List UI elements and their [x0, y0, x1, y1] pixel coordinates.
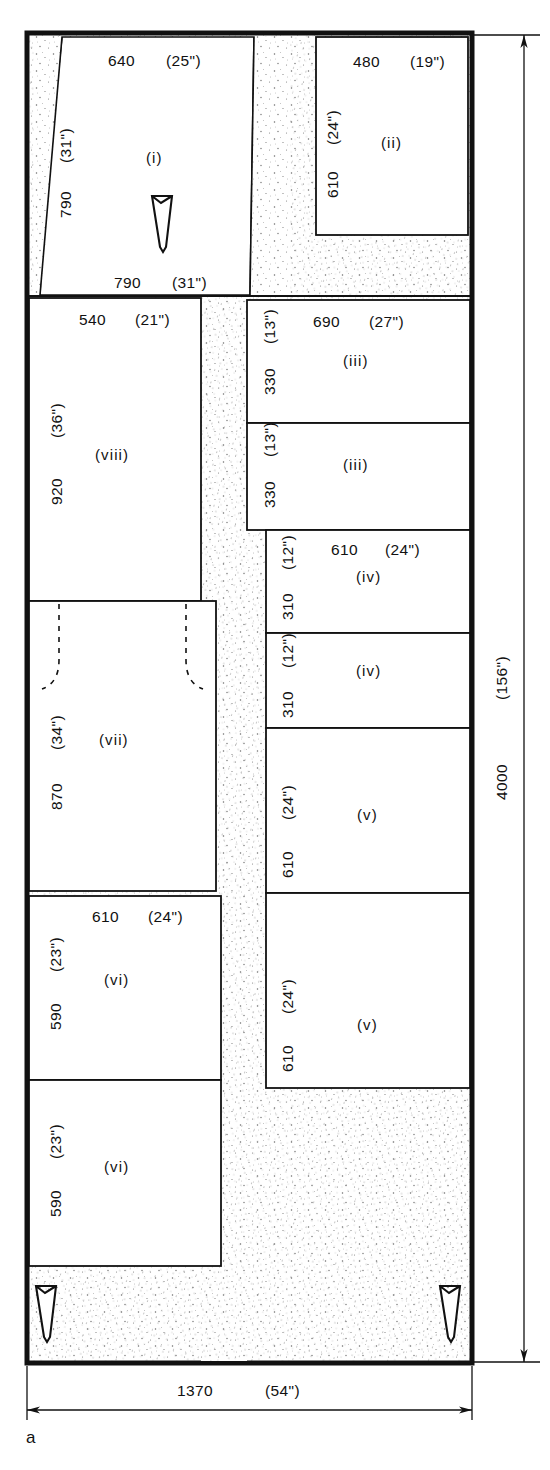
room-viii-left-dim-imperial: (36")	[48, 403, 65, 438]
room-v-upper-left-dim: 610	[279, 851, 296, 878]
room-ii-left-dim: 610	[324, 171, 341, 198]
room-vi-lower-left-dim-imperial: (23")	[47, 1124, 64, 1159]
room-vii-left-dim: 870	[48, 783, 65, 810]
room-iii-upper-name: (iii)	[343, 352, 369, 369]
room-vii-name: (vii)	[99, 731, 129, 748]
room-v-lower-left-dim-imperial: (24")	[279, 979, 296, 1014]
room-iv-lower-left-dim-imperial: (12")	[279, 633, 296, 668]
floor-plan-drawing: 640 (25") 790 (31") (i) 790 (31") 480 (1…	[0, 0, 550, 1470]
room-iv-upper-left-dim-imperial: (12")	[279, 535, 296, 570]
room-v-upper-name: (v)	[357, 806, 378, 823]
room-v-lower-left-dim: 610	[279, 1045, 296, 1072]
room-v-upper-left-dim-imperial: (24")	[279, 785, 296, 820]
overall-width-dim: 1370	[177, 1382, 213, 1399]
room-vii-left-dim-imperial: (34")	[48, 715, 65, 750]
room-iii-upper-left-dim-imperial: (13")	[261, 309, 278, 344]
room-vi-lower-name: (vi)	[104, 1158, 129, 1175]
room-vi-upper-top-dim-imperial: (24")	[148, 908, 183, 925]
room-iii-lower	[247, 423, 470, 530]
room-vi-lower-left-dim: 590	[47, 1190, 64, 1217]
room-viii-name: (viii)	[95, 446, 129, 463]
room-ii-top-dim-imperial: (19")	[410, 53, 445, 70]
overall-height-dim: 4000	[493, 764, 510, 800]
room-ii-left-dim-imperial: (24")	[324, 110, 341, 145]
room-i-name: (i)	[146, 149, 163, 166]
room-vi-upper-top-dim: 610	[92, 908, 119, 925]
room-i-top-dim-imperial: (25")	[166, 52, 201, 69]
room-vi-upper-name: (vi)	[104, 971, 129, 988]
room-iii-upper-top-dim-imperial: (27")	[369, 313, 404, 330]
room-ii-top-dim: 480	[353, 53, 380, 70]
room-iv-upper-name: (iv)	[356, 568, 381, 585]
room-i-left-dim: 790	[57, 191, 74, 218]
room-viii-top-dim: 540	[79, 311, 106, 328]
room-i-left-dim-imperial: (31")	[57, 128, 74, 163]
room-v-lower-name: (v)	[357, 1016, 378, 1033]
dimension-width	[27, 1366, 472, 1420]
room-iv-upper-top-dim: 610	[331, 541, 358, 558]
room-i-bottom-dim-imperial: (31")	[172, 274, 207, 291]
room-iii-lower-left-dim: 330	[261, 481, 278, 508]
room-iii-upper-top-dim: 690	[313, 313, 340, 330]
room-iii-lower-left-dim-imperial: (13")	[261, 422, 278, 457]
room-vi-upper-left-dim: 590	[47, 1003, 64, 1030]
room-iv-upper-left-dim: 310	[279, 593, 296, 620]
room-iv-lower-name: (iv)	[356, 662, 381, 679]
room-i-top-dim: 640	[108, 52, 135, 69]
overall-width-dim-imperial: (54")	[265, 1382, 300, 1399]
room-iii-lower-name: (iii)	[343, 456, 369, 473]
room-i-bottom-dim: 790	[114, 274, 141, 291]
room-iv-upper-top-dim-imperial: (24")	[385, 541, 420, 558]
room-iii-upper-left-dim: 330	[261, 368, 278, 395]
room-vi-upper	[29, 896, 221, 1080]
figure-caption: a	[26, 1428, 35, 1448]
room-viii-top-dim-imperial: (21")	[135, 311, 170, 328]
room-vi-upper-left-dim-imperial: (23")	[47, 937, 64, 972]
room-iv-lower	[266, 633, 470, 728]
room-v-lower	[266, 893, 470, 1088]
room-ii-name: (ii)	[381, 134, 402, 151]
room-i	[34, 37, 290, 295]
room-viii-left-dim: 920	[48, 478, 65, 505]
floor-plan-figure: 640 (25") 790 (31") (i) 790 (31") 480 (1…	[0, 0, 550, 1470]
room-iv-lower-left-dim: 310	[279, 691, 296, 718]
overall-height-dim-imperial: (156")	[493, 656, 510, 700]
